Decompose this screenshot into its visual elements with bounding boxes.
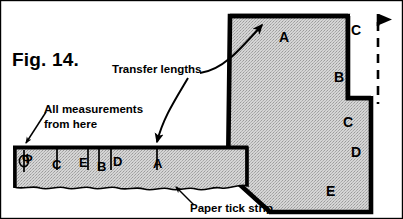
leader-all-measurements xyxy=(26,112,46,143)
shape-label-e-5: E xyxy=(326,183,335,199)
label-paper-tick-strip: Paper tick strip xyxy=(190,202,273,214)
dimension-arrowhead xyxy=(379,14,392,25)
tick-label-a: A xyxy=(153,156,163,171)
tick-label-c: C xyxy=(52,157,62,172)
shape-label-d-4: D xyxy=(351,144,361,160)
shape-label-c-3: C xyxy=(343,114,353,130)
dimension-line-group xyxy=(378,14,392,104)
tick-label-datum: Φ xyxy=(22,151,33,166)
leader-transfer-lengths-down xyxy=(157,78,188,142)
tick-label-b: B xyxy=(97,159,106,174)
tick-label-e: E xyxy=(79,155,88,170)
figure-canvas: Fig. 14. Transfer lengths All measuremen… xyxy=(0,0,403,219)
label-all-measurements: All measurements xyxy=(44,103,143,115)
tick-label-d: D xyxy=(113,154,122,169)
page-title: Fig. 14. xyxy=(12,49,79,70)
shape-label-b-1: B xyxy=(334,69,344,85)
figure-14-illustration: Fig. 14. Transfer lengths All measuremen… xyxy=(0,0,403,219)
label-from-here: from here xyxy=(44,118,97,130)
shape-label-a-0: A xyxy=(279,29,289,45)
shape-label-c-2: C xyxy=(351,22,361,38)
paper-tick-strip-body xyxy=(14,147,248,190)
label-transfer-lengths: Transfer lengths xyxy=(112,63,201,75)
